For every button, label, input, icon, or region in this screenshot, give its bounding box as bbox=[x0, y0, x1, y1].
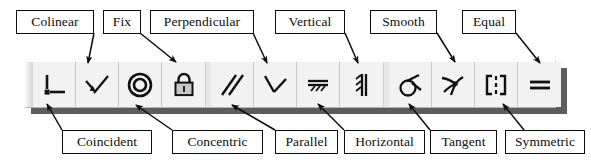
callout-label-colinear[interactable]: Colinear bbox=[16, 10, 94, 34]
perpendicular-icon bbox=[260, 70, 290, 100]
tool-button-vertical[interactable] bbox=[340, 62, 383, 107]
parallel-icon bbox=[217, 70, 247, 100]
callout-label-horizontal[interactable]: Horizontal bbox=[344, 130, 425, 154]
leader-vertical bbox=[345, 33, 358, 63]
callout-label-vertical[interactable]: Vertical bbox=[275, 10, 345, 34]
toolbar-group-1 bbox=[33, 62, 205, 107]
tool-button-coincident[interactable] bbox=[33, 62, 76, 107]
callout-label-parallel[interactable]: Parallel bbox=[275, 130, 338, 154]
concentric-icon bbox=[125, 70, 155, 100]
callout-label-coincident[interactable]: Coincident bbox=[62, 130, 152, 154]
coincident-icon bbox=[39, 70, 69, 100]
smooth-icon bbox=[438, 70, 468, 100]
equal-icon bbox=[525, 70, 555, 100]
tool-button-symmetric[interactable] bbox=[475, 62, 518, 107]
tool-button-perpendicular[interactable] bbox=[254, 62, 297, 107]
tool-button-smooth[interactable] bbox=[432, 62, 475, 107]
tool-button-colinear[interactable] bbox=[76, 62, 119, 107]
tool-button-equal[interactable] bbox=[518, 62, 561, 107]
vertical-icon bbox=[347, 70, 377, 100]
toolbar-group-2 bbox=[211, 62, 383, 107]
tool-button-tangent[interactable] bbox=[389, 62, 432, 107]
leader-equal bbox=[516, 33, 540, 63]
tool-button-concentric[interactable] bbox=[119, 62, 162, 107]
tool-button-fix[interactable] bbox=[162, 62, 205, 107]
diagram-root: Colinear Fix Perpendicular Vertical Smoo… bbox=[0, 0, 591, 162]
callout-label-equal[interactable]: Equal bbox=[462, 10, 516, 34]
callout-label-perpendicular[interactable]: Perpendicular bbox=[150, 10, 254, 34]
leader-perpendicular bbox=[253, 33, 267, 63]
leader-colinear bbox=[88, 33, 94, 63]
constraints-toolbar[interactable] bbox=[24, 60, 556, 108]
callout-label-concentric[interactable]: Concentric bbox=[172, 130, 263, 154]
callout-label-symmetric[interactable]: Symmetric bbox=[505, 130, 585, 154]
toolbar-group-3 bbox=[389, 62, 561, 107]
tool-button-parallel[interactable] bbox=[211, 62, 254, 107]
fix-lock-icon bbox=[169, 70, 199, 100]
callout-label-fix[interactable]: Fix bbox=[103, 10, 141, 34]
toolbar-drag-grip[interactable] bbox=[26, 62, 33, 107]
leader-fix bbox=[140, 33, 176, 62]
tangent-icon bbox=[395, 70, 425, 100]
colinear-icon bbox=[82, 70, 112, 100]
tool-button-horizontal[interactable] bbox=[297, 62, 340, 107]
symmetric-icon bbox=[481, 70, 511, 100]
horizontal-icon bbox=[303, 70, 333, 100]
leader-smooth bbox=[437, 33, 455, 62]
callout-label-smooth[interactable]: Smooth bbox=[370, 10, 437, 34]
callout-label-tangent[interactable]: Tangent bbox=[430, 130, 497, 154]
